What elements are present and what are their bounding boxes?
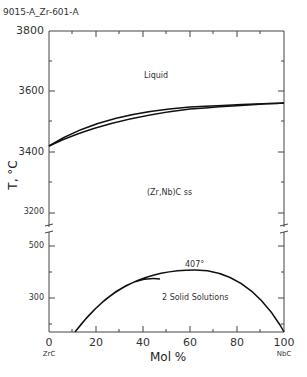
y-tick-3200: 3200 — [4, 207, 44, 216]
x-tick-100: 100 — [269, 336, 299, 349]
critical-temperature-label: 407° — [185, 260, 204, 269]
y-axis-label: T, °C — [6, 160, 20, 189]
x-tick-60: 60 — [175, 336, 205, 349]
x-tick-80: 80 — [222, 336, 252, 349]
liquidus-curve — [49, 103, 284, 146]
y-tick-500: 500 — [4, 241, 44, 250]
x-tick-0: 0 — [34, 336, 64, 349]
y-tick-3400: 3400 — [4, 146, 44, 157]
y-tick-300: 300 — [4, 293, 44, 302]
two-solid-solutions-label: 2 Solid Solutions — [162, 293, 228, 302]
y-tick-3800: 3800 — [4, 24, 44, 37]
solid-solution-region-label: (Zr,Nb)C ss — [147, 188, 192, 197]
liquid-region-label: Liquid — [144, 71, 168, 80]
x-axis-label: Mol % — [150, 350, 186, 364]
y-tick-3600: 3600 — [4, 85, 44, 96]
x-tick-40: 40 — [128, 336, 158, 349]
component-nbc-label: NbC — [269, 350, 299, 358]
component-zrc-label: ZrC — [34, 350, 64, 358]
x-tick-20: 20 — [81, 336, 111, 349]
